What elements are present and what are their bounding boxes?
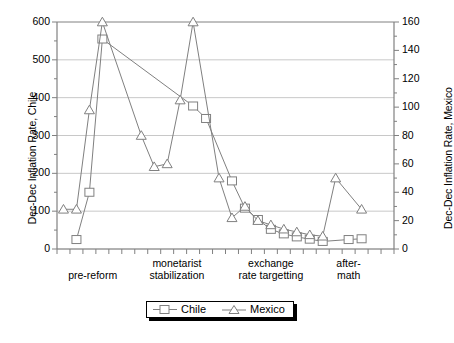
data-point-chile[interactable] [227, 177, 236, 185]
data-point-mexico[interactable] [71, 204, 81, 213]
y-axis-right-tick-label: 100 [402, 100, 436, 112]
y-axis-left-title: Dec-Dec Inflation Rate, Chile [26, 48, 38, 268]
data-point-chile[interactable] [72, 236, 81, 244]
y-axis-left-tick-label: 100 [16, 204, 50, 216]
data-point-mexico[interactable] [279, 224, 289, 233]
y-axis-right-tick-label: 20 [402, 214, 436, 226]
y-axis-right-tick-label: 140 [402, 43, 436, 55]
x-axis-category-label-line: math [279, 270, 419, 282]
y-axis-left-tick-label: 0 [16, 242, 50, 254]
y-axis-right-title: Dec-Dec Inflation Rate, Mexico [442, 48, 454, 268]
data-point-chile[interactable] [344, 236, 353, 244]
x-axis-category-label: after-math [279, 258, 419, 281]
legend-label-chile: Chile [181, 303, 206, 316]
y-axis-left-tick-label: 300 [16, 129, 50, 141]
data-point-mexico[interactable] [84, 105, 94, 114]
x-axis-category-label-line: after- [279, 258, 419, 270]
legend-entry-chile[interactable]: Chile [153, 303, 206, 316]
data-point-mexico[interactable] [266, 220, 276, 229]
series-line-mexico [63, 22, 361, 236]
data-point-mexico[interactable] [58, 204, 68, 213]
y-axis-right-tick-label: 40 [402, 185, 436, 197]
data-point-mexico[interactable] [331, 173, 341, 182]
y-axis-right-tick-label: 0 [402, 242, 436, 254]
data-point-chile[interactable] [357, 235, 366, 243]
legend-entry-mexico[interactable]: Mexico [222, 303, 285, 316]
y-axis-left-tick-label: 200 [16, 166, 50, 178]
plot-area [0, 0, 454, 343]
y-axis-left-tick-label: 500 [16, 53, 50, 65]
triangle-marker-icon [222, 304, 246, 315]
data-point-mexico[interactable] [214, 173, 224, 182]
y-axis-right-tick-label: 120 [402, 72, 436, 84]
y-axis-left-tick-label: 600 [16, 15, 50, 27]
data-point-chile[interactable] [85, 188, 94, 196]
chart-container: Dec-Dec Inflation Rate, Chile Dec-Dec In… [0, 0, 454, 343]
y-axis-left-tick-label: 400 [16, 91, 50, 103]
square-marker-icon [153, 304, 177, 315]
data-point-chile[interactable] [189, 102, 198, 110]
y-axis-right-tick-label: 60 [402, 157, 436, 169]
y-axis-right-tick-label: 80 [402, 129, 436, 141]
data-point-mexico[interactable] [162, 159, 172, 168]
y-axis-right-tick-label: 160 [402, 15, 436, 27]
chart-legend: Chile Mexico [146, 301, 294, 318]
legend-label-mexico: Mexico [250, 303, 285, 316]
